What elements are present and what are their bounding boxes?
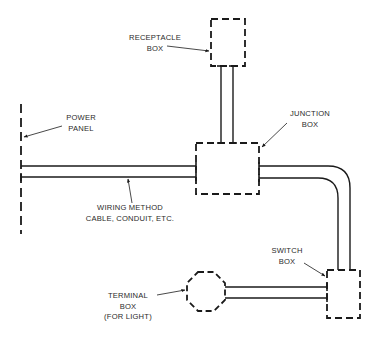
- receptacle-box: [211, 19, 245, 66]
- switch-box-label: SWITCH BOX: [262, 246, 312, 267]
- receptacle-cable: [217, 66, 237, 143]
- wiring-method-leader-arrow: [128, 179, 132, 203]
- terminal-leader-arrow: [157, 290, 185, 295]
- junction-box-label: JUNCTION BOX: [280, 109, 340, 130]
- receptacle-box-label: RECEPTACLE BOX: [120, 33, 190, 54]
- junction-box: [196, 143, 259, 194]
- wiring-method-cable: [21, 162, 196, 181]
- terminal-cable: [225, 283, 327, 302]
- power-panel-label: POWER PANEL: [56, 113, 106, 134]
- terminal-box-label: TERMINAL BOX (FOR LIGHT): [98, 291, 158, 323]
- wiring-method-label: WIRING METHOD CABLE, CONDUIT, ETC.: [75, 203, 185, 224]
- switch-box: [327, 270, 360, 318]
- terminal-box: [187, 272, 225, 311]
